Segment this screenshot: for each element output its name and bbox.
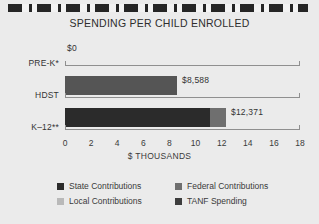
axis-cap-left-k12 bbox=[65, 125, 66, 130]
x-tick-2: 2 bbox=[89, 138, 94, 148]
legend-item-federal-contributions: Federal Contributions bbox=[175, 181, 272, 191]
legend-swatch-state-contributions bbox=[57, 183, 64, 190]
legend-label-local-contributions: Local Contributions bbox=[69, 196, 142, 206]
legend-label-federal-contributions: Federal Contributions bbox=[187, 181, 268, 191]
category-label-pre-k: PRE-K* bbox=[29, 58, 60, 68]
bar-row-k12: K–12** $12,371 bbox=[65, 106, 300, 134]
x-axis-title: $ THOUSANDS bbox=[0, 151, 319, 161]
axis-cap-left-hdst bbox=[65, 93, 66, 98]
axis-baseline-hdst bbox=[65, 97, 300, 98]
x-tick-8: 8 bbox=[167, 138, 172, 148]
category-label-hdst: HDST bbox=[35, 90, 59, 100]
bar-row-hdst: HDST $8,588 bbox=[65, 74, 300, 102]
x-tick-10: 10 bbox=[191, 138, 200, 148]
bar-segment-hdst-federal bbox=[65, 76, 177, 95]
bar-segment-k12-state bbox=[65, 108, 210, 127]
x-tick-6: 6 bbox=[141, 138, 146, 148]
x-tick-0: 0 bbox=[63, 138, 68, 148]
axis-cap-right-k12 bbox=[299, 125, 300, 130]
legend-item-tanf-spending: TANF Spending bbox=[175, 196, 272, 206]
x-tick-14: 14 bbox=[243, 138, 252, 148]
bar-k12 bbox=[65, 108, 226, 127]
legend-swatch-tanf-spending bbox=[175, 198, 182, 205]
decorative-dashed-rule bbox=[8, 4, 308, 12]
value-label-k12: $12,371 bbox=[231, 107, 263, 117]
bar-row-pre-k: PRE-K* $0 bbox=[65, 42, 300, 70]
x-tick-18: 18 bbox=[295, 138, 304, 148]
bar-hdst bbox=[65, 76, 177, 95]
legend-item-local-contributions: Local Contributions bbox=[57, 196, 175, 206]
category-label-k12: K–12** bbox=[31, 122, 59, 132]
x-tick-12: 12 bbox=[217, 138, 226, 148]
bar-segment-k12-federal bbox=[210, 108, 226, 127]
plot-area: PRE-K* $0 HDST $8,588 K–12** $12,371 bbox=[65, 42, 300, 137]
axis-cap-right-hdst bbox=[299, 93, 300, 98]
axis-baseline-pre-k bbox=[65, 65, 300, 66]
x-axis-ticks: 0 2 4 6 8 10 12 14 16 18 bbox=[65, 138, 300, 150]
axis-cap-left-pre-k bbox=[65, 61, 66, 66]
legend-label-state-contributions: State Contributions bbox=[69, 181, 141, 191]
legend-swatch-federal-contributions bbox=[175, 183, 182, 190]
legend-item-state-contributions: State Contributions bbox=[57, 181, 175, 191]
chart-title: SPENDING PER CHILD ENROLLED bbox=[0, 17, 319, 29]
axis-baseline-k12 bbox=[65, 129, 300, 130]
value-label-hdst: $8,588 bbox=[182, 75, 209, 85]
x-tick-4: 4 bbox=[115, 138, 120, 148]
legend-swatch-local-contributions bbox=[57, 198, 64, 205]
x-tick-16: 16 bbox=[269, 138, 278, 148]
chart-legend: State Contributions Federal Contribution… bbox=[57, 181, 272, 206]
axis-cap-right-pre-k bbox=[299, 61, 300, 66]
value-label-pre-k: $0 bbox=[67, 43, 77, 53]
legend-label-tanf-spending: TANF Spending bbox=[187, 196, 247, 206]
